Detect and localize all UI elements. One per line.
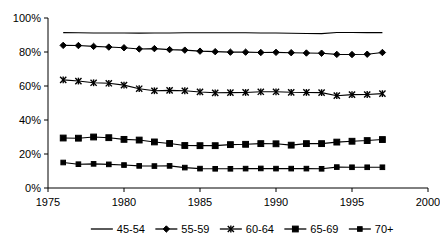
x-tick-label: 1995 [340,196,364,208]
data-point-marker [76,135,82,141]
data-point-marker [197,48,203,54]
data-point-marker [91,134,97,140]
data-point-marker [75,42,81,48]
data-point-marker [166,46,172,52]
data-point-marker [380,137,386,143]
data-point-marker [137,164,142,169]
y-tick-label: 40% [19,114,41,126]
data-point-marker [335,165,340,170]
data-point-marker [198,166,203,171]
data-point-marker [258,141,264,147]
data-point-marker [121,136,127,142]
data-point-marker [228,142,234,148]
legend-item-45-54[interactable]: 45-54 [91,223,145,235]
data-point-marker [90,43,96,49]
data-point-marker [273,49,279,55]
series-65-69 [60,134,385,148]
data-point-marker [213,166,218,171]
data-point-marker [182,47,188,53]
data-point-marker [289,166,294,171]
x-tick-label: 1985 [188,196,212,208]
data-point-marker [212,143,218,149]
data-point-marker [167,164,172,169]
series-45-54 [63,32,382,33]
series-line-45-54 [63,32,382,33]
legend-label-45-54: 45-54 [117,223,145,235]
data-point-marker [288,142,294,148]
data-point-marker [197,143,203,149]
x-tick-label: 1975 [36,196,60,208]
data-point-marker [212,48,218,54]
y-tick-label: 0% [25,182,41,194]
data-point-marker [136,46,142,52]
legend-label-60-64: 60-64 [246,223,274,235]
data-point-marker [334,139,340,145]
legend: 45-5455-5960-6465-6970+ [91,223,394,235]
line-chart: 0%20%40%60%80%100%1975198019851990199520… [0,0,440,251]
data-point-marker [106,44,112,50]
data-point-marker [243,141,249,147]
data-point-marker [379,49,385,55]
series-70+ [61,160,385,171]
x-tick-label: 1990 [264,196,288,208]
data-point-marker [227,49,233,55]
data-point-marker [303,50,309,56]
y-tick-label: 100% [13,12,41,24]
data-point-marker [121,45,127,51]
data-point-marker [182,143,188,149]
data-point-marker [350,165,355,170]
data-point-marker [243,166,248,171]
data-point-marker [60,42,66,48]
legend-item-55-59[interactable]: 55-59 [155,223,209,235]
data-point-marker [258,49,264,55]
y-tick-label: 20% [19,148,41,160]
data-point-marker [349,138,355,144]
data-point-marker [334,51,340,57]
data-point-marker [76,162,81,167]
data-point-marker [60,135,66,141]
data-point-marker [242,49,248,55]
data-point-marker [319,141,325,147]
x-tick-label: 2000 [416,196,440,208]
data-point-marker [107,162,112,167]
data-point-marker [358,227,363,232]
data-point-marker [274,166,279,171]
series-55-59 [60,42,386,58]
legend-item-70+[interactable]: 70+ [349,223,394,235]
data-point-marker [61,160,66,165]
data-point-marker [273,141,279,147]
data-point-marker [259,166,264,171]
data-point-marker [304,141,310,147]
data-point-marker [292,226,298,232]
series-60-64 [60,76,385,99]
data-point-marker [106,135,112,141]
legend-item-65-69[interactable]: 65-69 [284,223,338,235]
data-point-marker [319,166,324,171]
legend-label-70+: 70+ [375,223,394,235]
data-point-marker [136,137,142,143]
legend-item-60-64[interactable]: 60-64 [220,223,274,235]
y-tick-label: 80% [19,46,41,58]
x-tick-label: 1980 [112,196,136,208]
data-point-marker [304,166,309,171]
y-tick-label: 60% [19,80,41,92]
data-point-marker [349,51,355,57]
data-point-marker [151,45,157,51]
data-point-marker [228,166,233,171]
data-point-marker [122,163,127,168]
chart-container: 0%20%40%60%80%100%1975198019851990199520… [0,0,440,251]
data-point-marker [365,165,370,170]
data-point-marker [364,138,370,144]
data-point-marker [163,226,169,232]
data-point-marker [364,51,370,57]
data-point-marker [91,162,96,167]
data-point-marker [152,164,157,169]
data-point-marker [318,50,324,56]
legend-label-55-59: 55-59 [181,223,209,235]
legend-label-65-69: 65-69 [310,223,338,235]
data-point-marker [380,165,385,170]
data-point-marker [288,49,294,55]
data-point-marker [152,139,158,145]
data-point-marker [183,165,188,170]
data-point-marker [167,141,173,147]
